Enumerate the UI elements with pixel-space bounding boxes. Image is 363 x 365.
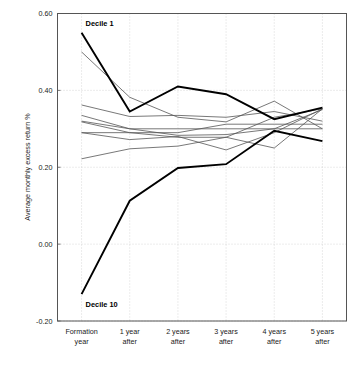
x-axis-tick-label: 5 years bbox=[311, 327, 335, 336]
series-annotation-label: Decile 1 bbox=[86, 19, 114, 28]
y-axis-title: Average monthly excess return % bbox=[23, 113, 32, 221]
x-axis-tick-label: 1 year bbox=[120, 327, 141, 336]
y-axis-tick-label: -0.20 bbox=[36, 317, 52, 326]
x-axis-tick-label: 2 years bbox=[166, 327, 190, 336]
chart-figure: 0.600.400.200.00-0.20 Formationyear1 yea… bbox=[0, 0, 363, 365]
y-axis-tick-label: 0.40 bbox=[39, 86, 53, 95]
x-axis-tick-label: after bbox=[315, 337, 330, 346]
series-annotation-label: Decile 10 bbox=[86, 300, 118, 309]
x-axis-tick-label: 4 years bbox=[262, 327, 286, 336]
x-axis-tick-label: after bbox=[267, 337, 282, 346]
x-axis-tick-label: after bbox=[123, 337, 138, 346]
x-axis-tick-label: 3 years bbox=[214, 327, 238, 336]
x-axis-tick-label: after bbox=[171, 337, 186, 346]
x-axis-tick-label: after bbox=[219, 337, 234, 346]
y-axis-tick-label: 0.20 bbox=[39, 163, 53, 172]
y-axis-tick-label: 0.00 bbox=[39, 240, 53, 249]
line-chart: 0.600.400.200.00-0.20 Formationyear1 yea… bbox=[0, 0, 363, 365]
chart-background bbox=[0, 0, 363, 365]
x-axis-tick-label: Formation bbox=[65, 327, 97, 336]
x-axis-tick-label: year bbox=[75, 337, 90, 346]
y-axis-tick-label: 0.60 bbox=[39, 9, 53, 18]
